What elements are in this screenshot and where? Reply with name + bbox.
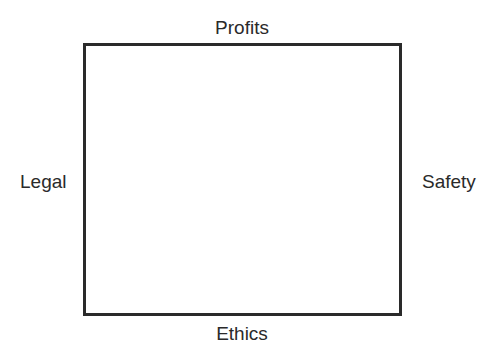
- label-left-legal: Legal: [20, 171, 67, 193]
- label-bottom-ethics: Ethics: [0, 323, 484, 345]
- central-rectangle: [83, 43, 402, 316]
- label-top-profits: Profits: [0, 17, 484, 39]
- label-right-safety: Safety: [422, 171, 476, 193]
